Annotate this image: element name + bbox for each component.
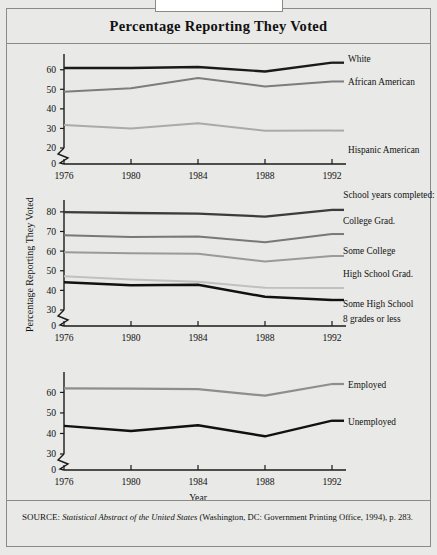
series-line-african-american [64, 78, 332, 92]
legend-label-hispanic-american: Hispanic American [348, 145, 420, 156]
x-tick-label: 1992 [322, 476, 341, 487]
x-tick-label: 1980 [121, 170, 140, 181]
y-tick-label: 40 [46, 285, 56, 296]
legend-label-some-college: Some College [343, 246, 395, 257]
legend-label-unemployed: Unemployed [348, 417, 396, 428]
x-tick-label: 1976 [54, 170, 73, 181]
chart-panel-race-ethnicity: 0203040506019761980198419881992 [0, 44, 437, 189]
y-tick-label: 40 [46, 428, 56, 439]
y-tick-label: 0 [51, 158, 56, 169]
y-axis-label: Percentage Reporting They Voted [24, 197, 35, 332]
y-tick-label: 0 [51, 320, 56, 331]
x-tick-label: 1992 [322, 332, 341, 343]
y-tick-label: 50 [46, 84, 56, 95]
source-details: (Washington, DC: Government Printing Off… [197, 512, 413, 522]
x-axis-label: Year [189, 492, 207, 500]
series-line-unemployed [64, 421, 332, 437]
series-line-some-high-school [64, 276, 332, 288]
y-tick-label: 30 [46, 123, 56, 134]
legend-label-white: White [348, 54, 371, 65]
x-tick-label: 1984 [188, 332, 207, 343]
y-tick-label: 30 [46, 304, 56, 315]
legend-label-some-high-school: Some High School [343, 299, 413, 310]
y-tick-label: 50 [46, 265, 56, 276]
x-tick-label: 1988 [255, 476, 274, 487]
x-tick-label: 1984 [188, 476, 207, 487]
series-line-8-grades-or-less [64, 282, 332, 300]
legend-label-african-american: African American [348, 77, 415, 88]
x-tick-label: 1984 [188, 170, 207, 181]
x-tick-label: 1980 [121, 476, 140, 487]
series-line-college-grad [64, 210, 332, 217]
legend-title-school-years: School years completed: [343, 190, 435, 201]
chart-svg-race-ethnicity: 0203040506019761980198419881992 [0, 44, 437, 189]
x-tick-label: 1988 [255, 170, 274, 181]
source-publication-title: Statistical Abstract of the United State… [62, 512, 197, 522]
series-line-some-college [64, 234, 332, 242]
x-tick-label: 1976 [54, 332, 73, 343]
source-prefix: SOURCE: [22, 512, 60, 522]
y-tick-label: 60 [46, 246, 56, 257]
series-line-hispanic-american [64, 123, 332, 131]
legend-label-college-grad: College Grad. [343, 216, 395, 227]
figure-container: Percentage Reporting They Voted 02030405… [0, 0, 437, 555]
y-tick-label: 80 [46, 206, 56, 217]
x-tick-label: 1992 [322, 170, 341, 181]
legend-label-high-school-grad: High School Grad. [343, 269, 413, 280]
series-line-high-school-grad [64, 252, 332, 261]
legend-label-employed: Employed [348, 380, 386, 391]
y-tick-label: 60 [46, 64, 56, 75]
y-tick-label: 20 [46, 142, 56, 153]
legend-label-8-grades-or-less: 8 grades or less [343, 314, 401, 325]
y-tick-label: 70 [46, 226, 56, 237]
series-line-employed [64, 384, 332, 396]
series-line-white [64, 63, 332, 72]
y-tick-label: 40 [46, 103, 56, 114]
x-tick-label: 1980 [121, 332, 140, 343]
x-tick-label: 1988 [255, 332, 274, 343]
y-tick-label: 30 [46, 448, 56, 459]
source-citation: SOURCE: Statistical Abstract of the Unit… [22, 512, 418, 524]
source-divider [7, 500, 430, 501]
x-tick-label: 1976 [54, 476, 73, 487]
figure-title-bar: Percentage Reporting They Voted [7, 9, 430, 44]
y-tick-label: 0 [51, 464, 56, 475]
y-tick-label: 60 [46, 387, 56, 398]
y-tick-label: 50 [46, 407, 56, 418]
figure-title: Percentage Reporting They Voted [110, 18, 328, 35]
